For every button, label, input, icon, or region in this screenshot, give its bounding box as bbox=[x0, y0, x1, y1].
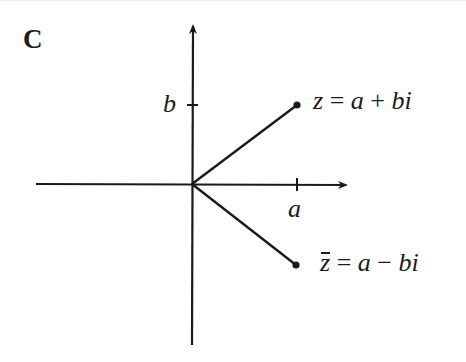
z-equals: = bbox=[323, 86, 351, 115]
panel-label: C bbox=[23, 26, 43, 53]
z-vector bbox=[192, 105, 297, 184]
z-real-part: a bbox=[351, 86, 364, 115]
z-conjugate-vector bbox=[192, 184, 296, 265]
z-operator: + bbox=[364, 86, 392, 115]
z-var: z bbox=[313, 86, 323, 115]
z-conjugate-operator: − bbox=[371, 248, 399, 277]
b-tick-label: b bbox=[163, 91, 176, 117]
z-label: z = a + bi bbox=[313, 88, 412, 114]
z-conjugate-point bbox=[292, 261, 299, 268]
z-conjugate-real-part: a bbox=[358, 248, 371, 277]
z-conjugate-equals: = bbox=[330, 248, 358, 277]
z-conjugate-var: z bbox=[320, 250, 330, 276]
a-var: a bbox=[288, 194, 301, 223]
real-axis bbox=[36, 184, 346, 185]
z-point bbox=[293, 101, 300, 108]
b-var: b bbox=[163, 89, 176, 118]
z-conjugate-label: z = a − bi bbox=[320, 250, 419, 276]
z-imag-part: bi bbox=[391, 86, 411, 115]
complex-plane-diagram bbox=[0, 0, 466, 362]
z-conjugate-imag-part: bi bbox=[398, 248, 418, 277]
a-tick-label: a bbox=[288, 196, 301, 222]
